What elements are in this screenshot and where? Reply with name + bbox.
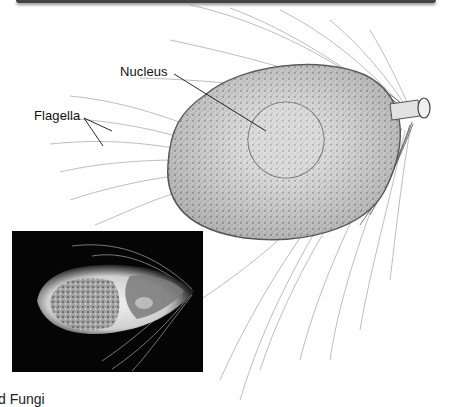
micrograph-organism xyxy=(12,231,203,372)
anterior-tube xyxy=(390,100,420,120)
anterior-cap xyxy=(418,98,430,118)
page-caption-fragment: d Fungi xyxy=(0,391,45,407)
inset-micrograph xyxy=(12,231,203,372)
flagella-label: Flagella xyxy=(34,108,80,123)
nucleus-label: Nucleus xyxy=(120,64,168,79)
